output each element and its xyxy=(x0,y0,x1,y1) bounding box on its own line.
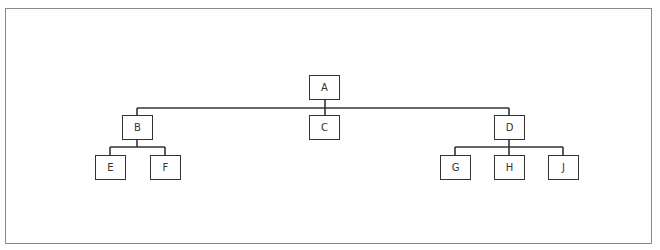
node-label: A xyxy=(321,82,328,93)
node-c: C xyxy=(309,115,340,140)
node-f: F xyxy=(150,155,181,180)
node-label: D xyxy=(506,122,514,133)
node-label: C xyxy=(321,122,328,133)
node-label: E xyxy=(107,162,113,173)
node-g: G xyxy=(440,155,471,180)
node-h: H xyxy=(494,155,525,180)
node-label: G xyxy=(452,162,460,173)
node-d: D xyxy=(494,115,525,140)
node-j: J xyxy=(548,155,579,180)
node-a: A xyxy=(309,75,340,100)
node-e: E xyxy=(95,155,126,180)
node-label: H xyxy=(506,162,514,173)
node-label: B xyxy=(134,122,141,133)
node-label: J xyxy=(562,162,565,173)
node-label: F xyxy=(163,162,169,173)
node-b: B xyxy=(122,115,153,140)
